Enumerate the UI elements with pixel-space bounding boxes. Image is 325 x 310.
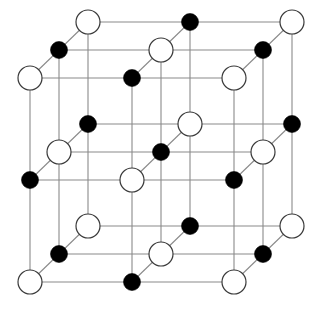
- atom-layer: [18, 10, 304, 294]
- atom-anion: [251, 140, 275, 164]
- atom-anion: [149, 38, 173, 62]
- atom-anion: [222, 270, 246, 294]
- atom-anion: [18, 270, 42, 294]
- atom-cation: [182, 14, 199, 31]
- atom-cation: [153, 144, 170, 161]
- atom-anion: [280, 10, 304, 34]
- atom-cation: [80, 116, 97, 133]
- atom-anion: [178, 112, 202, 136]
- atom-anion: [120, 168, 144, 192]
- atom-anion: [280, 214, 304, 238]
- atom-cation: [22, 172, 39, 189]
- atom-cation: [124, 274, 141, 291]
- atom-cation: [255, 246, 272, 263]
- atom-cation: [284, 116, 301, 133]
- atom-anion: [76, 10, 100, 34]
- atom-cation: [255, 42, 272, 59]
- atom-anion: [149, 242, 173, 266]
- atom-cation: [51, 246, 68, 263]
- atom-cation: [51, 42, 68, 59]
- atom-cation: [124, 70, 141, 87]
- atom-anion: [47, 140, 71, 164]
- atom-anion: [76, 214, 100, 238]
- lattice-diagram: [0, 0, 325, 310]
- crystal-lattice-figure: [0, 0, 325, 310]
- atom-cation: [226, 172, 243, 189]
- atom-anion: [222, 66, 246, 90]
- atom-anion: [18, 66, 42, 90]
- atom-cation: [182, 218, 199, 235]
